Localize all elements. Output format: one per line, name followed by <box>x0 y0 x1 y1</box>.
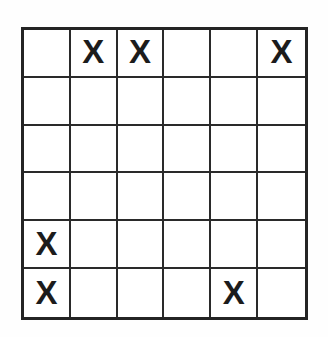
grid-figure: X X X X X <box>21 27 308 320</box>
cell-mark: X <box>82 35 104 68</box>
grid-cell-r3c2[interactable] <box>71 126 118 174</box>
grid-cell-r6c5[interactable]: X <box>211 269 258 317</box>
grid-cell-r4c2[interactable] <box>71 173 118 221</box>
grid-cell-r2c6[interactable] <box>258 78 305 126</box>
cell-mark: X <box>35 276 57 309</box>
page-root: X X X X X <box>0 0 328 337</box>
grid-cell-r2c5[interactable] <box>211 78 258 126</box>
grid-cell-r4c3[interactable] <box>118 173 165 221</box>
grid-cell-r4c4[interactable] <box>164 173 211 221</box>
grid-cell-r5c6[interactable] <box>258 221 305 269</box>
grid-cell-r3c3[interactable] <box>118 126 165 174</box>
grid-cell-r1c5[interactable] <box>211 30 258 78</box>
grid-cell-r5c3[interactable] <box>118 221 165 269</box>
cell-mark: X <box>129 35 151 68</box>
grid-cell-r3c6[interactable] <box>258 126 305 174</box>
grid-cell-r6c1[interactable]: X <box>24 269 71 317</box>
grid-cell-r1c4[interactable] <box>164 30 211 78</box>
grid-cell-r5c1[interactable]: X <box>24 221 71 269</box>
grid-cell-r4c1[interactable] <box>24 173 71 221</box>
grid-cell-r2c1[interactable] <box>24 78 71 126</box>
grid-cell-r3c1[interactable] <box>24 126 71 174</box>
cell-mark: X <box>271 35 293 68</box>
grid-cell-r4c5[interactable] <box>211 173 258 221</box>
cell-mark: X <box>35 227 57 260</box>
grid-cell-r1c6[interactable]: X <box>258 30 305 78</box>
grid-cell-r1c2[interactable]: X <box>71 30 118 78</box>
grid-cell-r6c2[interactable] <box>71 269 118 317</box>
grid-cell-r1c3[interactable]: X <box>118 30 165 78</box>
grid-cell-r4c6[interactable] <box>258 173 305 221</box>
grid-cell-r6c6[interactable] <box>258 269 305 317</box>
grid-cell-r5c5[interactable] <box>211 221 258 269</box>
grid-cell-r2c2[interactable] <box>71 78 118 126</box>
grid-cell-r6c4[interactable] <box>164 269 211 317</box>
grid-cell-r3c5[interactable] <box>211 126 258 174</box>
grid-cell-r3c4[interactable] <box>164 126 211 174</box>
cell-mark: X <box>223 276 245 309</box>
grid-cell-r1c1[interactable] <box>24 30 71 78</box>
grid-cell-r2c4[interactable] <box>164 78 211 126</box>
grid-cell-r2c3[interactable] <box>118 78 165 126</box>
grid-cell-r5c2[interactable] <box>71 221 118 269</box>
grid-cell-r5c4[interactable] <box>164 221 211 269</box>
grid-cell-r6c3[interactable] <box>118 269 165 317</box>
